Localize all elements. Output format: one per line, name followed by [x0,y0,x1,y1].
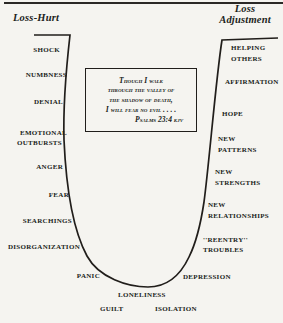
stage-label-hope: HOPE [222,110,243,118]
stage-label-new-relationships-line1: NEW [208,201,226,209]
loss-adjustment-heading-line1: Loss [216,3,274,14]
stage-label-reentry-troubles-line1: ''REENTRY'' [203,236,248,244]
stage-label-fear: FEAR [49,191,69,199]
stage-label-new-strengths-line1: NEW [215,168,233,176]
quote-line-1: Though I walk [91,76,191,86]
stage-label-new-patterns-line1: NEW [218,135,236,143]
scripture-quote-box: Though I walk through the valley of the … [85,68,197,132]
stage-label-isolation: ISOLATION [155,305,197,313]
stage-label-helping-others-line1: HELPING [231,44,265,52]
stage-label-depression: DEPRESSION [183,273,231,281]
stage-label-panic: PANIC [77,272,100,280]
quote-line-4: I will fear no evil . . . . [91,105,191,115]
stage-label-guilt: GUILT [100,305,123,313]
stage-label-new-strengths-line2: STRENGTHS [215,179,261,187]
stage-label-shock: SHOCK [33,46,60,54]
stage-label-disorganization: DISORGANIZATION [8,243,80,251]
stage-label-anger: ANGER [36,163,63,171]
stage-label-reentry-troubles-line2: TROUBLES [203,246,244,254]
quote-line-2: through the valley of [91,85,191,95]
stage-label-affirmation: AFFIRMATION [225,78,279,86]
stage-label-helping-others-line2: OTHERS [231,55,262,63]
quote-citation: Psalms 23:4 kjv [91,115,191,125]
stage-label-searchings: SEARCHINGS [23,217,72,225]
loss-adjustment-heading-line2: Adjustment [216,14,274,25]
grief-cycle-diagram: Loss-Hurt Loss Adjustment Though I walk … [0,0,283,323]
stage-label-new-relationships-line2: RELATIONSHIPS [208,212,269,220]
stage-label-numbness: NUMBNESS [26,71,67,79]
stage-label-new-patterns-line2: PATTERNS [218,146,257,154]
loss-hurt-heading: Loss-Hurt [13,12,59,23]
loss-adjustment-heading: Loss Adjustment [216,3,274,25]
quote-line-3: the shadow of death, [91,95,191,105]
stage-label-emotional-outbursts-line2: OUTBURSTS [17,139,62,147]
stage-label-loneliness: LONELINESS [118,291,166,299]
stage-label-emotional-outbursts-line1: EMOTIONAL [20,129,67,137]
stage-label-denial: DENIAL [34,98,63,106]
